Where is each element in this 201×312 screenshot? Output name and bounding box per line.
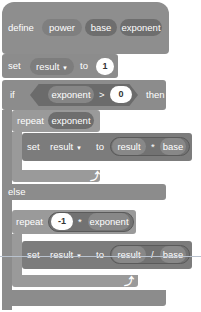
if-block[interactable]: if exponent > 0 then — [2, 80, 166, 110]
loop-arrow-icon: ⤴ — [90, 168, 100, 183]
define-label: define — [8, 22, 34, 34]
if-end-bar — [2, 290, 166, 306]
repeat-block-then[interactable]: repeat exponent — [12, 110, 100, 132]
if-label: if — [10, 89, 15, 101]
repeat-c-bottom: ⤴ — [12, 170, 100, 182]
then-label: then — [146, 89, 165, 101]
repeat-c-arm — [12, 234, 22, 280]
condition-right[interactable]: 0 — [110, 86, 132, 103]
set-label: set — [8, 60, 21, 72]
expr-left[interactable]: result — [112, 138, 146, 155]
expr-right[interactable]: base — [160, 246, 186, 263]
define-name: power — [42, 19, 82, 36]
repeat-count[interactable]: exponent — [48, 112, 94, 129]
repeat-label: repeat — [16, 216, 43, 228]
loop-arrow-icon: ⤴ — [124, 273, 134, 288]
dropdown-arrow-icon: ▼ — [62, 65, 68, 71]
define-block[interactable]: define power base exponent — [2, 2, 169, 54]
else-label: else — [8, 186, 25, 198]
operator-gt: > — [99, 89, 105, 101]
repeat-label: repeat — [17, 115, 44, 127]
operator-multiply: * — [151, 141, 155, 153]
operator-divide: / — [151, 249, 154, 261]
expr-right[interactable]: base — [160, 138, 186, 155]
set-label: set — [27, 249, 40, 261]
expr-right[interactable]: exponent — [88, 213, 130, 230]
to-label: to — [80, 60, 88, 72]
repeat-c-bottom: ⤴ — [12, 275, 138, 287]
repeat-block-else[interactable]: repeat -1 * exponent — [12, 210, 136, 234]
condition-left[interactable]: exponent — [48, 86, 94, 103]
if-c-arm — [2, 110, 12, 310]
guide-line — [0, 256, 201, 257]
variable-dropdown[interactable]: result ▼ — [30, 58, 74, 75]
else-bar: else — [2, 184, 166, 200]
to-label: to — [96, 249, 104, 261]
set-result-multiply-block[interactable]: set result ▼ to result * base — [22, 133, 192, 161]
set-result-divide-block[interactable]: set result ▼ to result / base — [22, 241, 192, 269]
value-input[interactable]: 1 — [96, 58, 114, 75]
param-base[interactable]: base — [85, 19, 117, 36]
set-result-init-block[interactable]: set result ▼ to 1 — [2, 54, 118, 78]
param-exponent[interactable]: exponent — [120, 19, 162, 36]
to-label: to — [96, 141, 104, 153]
expr-left[interactable]: -1 — [51, 213, 73, 230]
variable-dropdown[interactable]: result ▼ — [50, 141, 82, 154]
operator-multiply: * — [78, 216, 82, 228]
set-label: set — [27, 141, 40, 153]
expr-left[interactable]: result — [112, 246, 146, 263]
